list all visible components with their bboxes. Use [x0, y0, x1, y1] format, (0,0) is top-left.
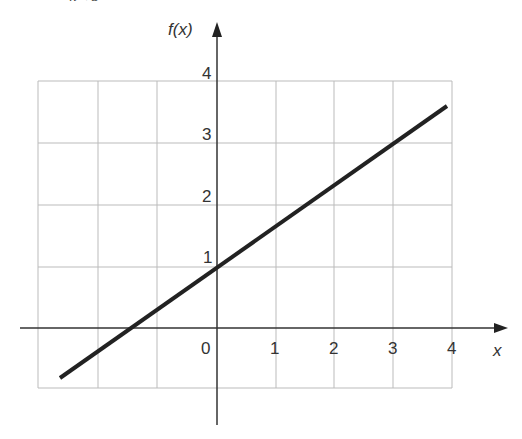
chart-svg — [0, 0, 522, 439]
y-tick-3: 3 — [202, 125, 211, 145]
x-axis-label: x — [493, 341, 502, 361]
y-axis-arrow-icon — [212, 22, 222, 37]
y-tick-1: 1 — [203, 248, 212, 268]
x-axis-arrow-icon — [494, 323, 508, 333]
x-tick-1: 1 — [270, 339, 279, 359]
function-line — [60, 106, 447, 378]
axes — [20, 30, 498, 425]
x-tick-3: 3 — [388, 339, 397, 359]
x-tick-4: 4 — [447, 339, 456, 359]
y-tick-2: 2 — [202, 187, 211, 207]
y-tick-4: 4 — [202, 64, 211, 84]
x-tick-0: 0 — [201, 339, 210, 359]
x-tick-2: 2 — [329, 339, 338, 359]
y-axis-label: f(x) — [168, 20, 193, 40]
